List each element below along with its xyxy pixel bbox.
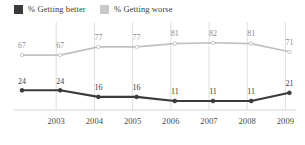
- x-axis-tick-2006: 2006: [162, 116, 179, 126]
- data-point[interactable]: [288, 50, 291, 53]
- legend-item-getting-worse[interactable]: % Getting worse: [100, 2, 173, 16]
- legend-item-getting-better[interactable]: % Getting better: [14, 2, 86, 16]
- data-label: 82: [209, 29, 217, 38]
- plot-svg: 6767777781828171 2424161611111121: [0, 20, 305, 115]
- data-label: 11: [171, 87, 179, 96]
- data-label: 11: [209, 87, 217, 96]
- data-label: 24: [56, 77, 64, 86]
- data-point[interactable]: [249, 99, 253, 103]
- line-chart: % Getting better % Getting worse 6767777…: [0, 0, 305, 145]
- data-point[interactable]: [288, 91, 292, 95]
- plot-area: 6767777781828171 2424161611111121: [0, 20, 305, 115]
- x-axis-labels: 2003200420052006200720082009: [0, 116, 305, 134]
- data-label: 16: [133, 83, 141, 92]
- data-label: 11: [247, 87, 255, 96]
- legend-label-better: % Getting better: [28, 4, 86, 14]
- data-label: 77: [133, 33, 141, 42]
- data-label: 77: [94, 33, 102, 42]
- data-point[interactable]: [135, 95, 139, 99]
- legend-label-worse: % Getting worse: [114, 4, 173, 14]
- x-axis-tick-2005: 2005: [124, 116, 141, 126]
- series-getting-worse: 6767777781828171: [18, 29, 293, 57]
- data-label: 24: [18, 77, 26, 86]
- data-label: 67: [56, 41, 64, 50]
- data-point[interactable]: [58, 88, 62, 92]
- data-point[interactable]: [20, 53, 23, 56]
- data-point[interactable]: [211, 41, 214, 44]
- legend-swatch-better: [14, 5, 23, 14]
- data-label: 81: [247, 29, 255, 38]
- data-point[interactable]: [173, 99, 177, 103]
- data-label: 21: [285, 79, 293, 88]
- x-axis-tick-2008: 2008: [238, 116, 255, 126]
- x-axis-tick-2009: 2009: [277, 116, 294, 126]
- x-axis-tick-2004: 2004: [86, 116, 103, 126]
- chart-legend: % Getting better % Getting worse: [0, 0, 305, 20]
- x-axis-tick-2003: 2003: [47, 116, 64, 126]
- legend-swatch-worse: [100, 5, 109, 14]
- data-label: 81: [171, 29, 179, 38]
- data-point[interactable]: [97, 45, 100, 48]
- data-point[interactable]: [211, 99, 215, 103]
- data-point[interactable]: [97, 95, 101, 99]
- data-point[interactable]: [135, 45, 138, 48]
- data-point[interactable]: [250, 42, 253, 45]
- series-getting-better: 2424161611111121: [18, 77, 293, 103]
- data-label: 16: [94, 83, 102, 92]
- data-point[interactable]: [173, 42, 176, 45]
- data-label: 71: [285, 38, 293, 47]
- data-point[interactable]: [20, 88, 24, 92]
- data-label: 67: [18, 41, 26, 50]
- data-point[interactable]: [59, 53, 62, 56]
- x-axis-tick-2007: 2007: [200, 116, 217, 126]
